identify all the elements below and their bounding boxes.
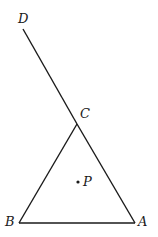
point-p-dot [76,180,79,183]
label-c: C [80,107,90,120]
label-d: D [18,12,28,25]
geometry-figure [0,0,158,237]
segment-cb [19,124,77,223]
label-a: A [138,215,147,228]
label-p: P [83,175,92,188]
segment-dc [23,29,77,124]
label-b: B [5,215,15,228]
